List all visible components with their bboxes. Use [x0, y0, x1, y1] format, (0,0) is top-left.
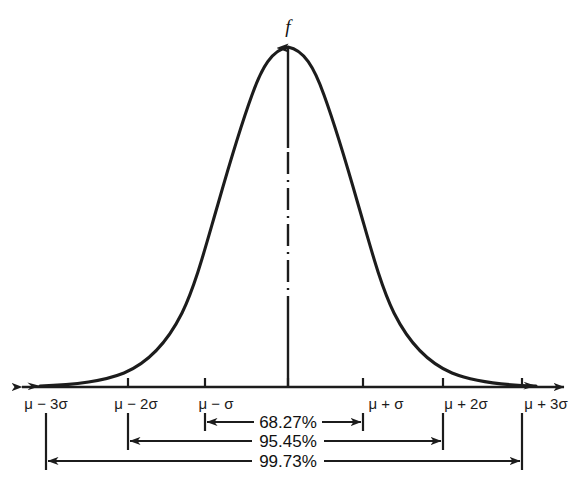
density-axis-group: f [285, 16, 293, 387]
density-axis-label: f [285, 16, 293, 37]
axis-label-plus-3-sigma: μ + 3σ [524, 395, 568, 412]
interval-99-label: 99.73% [259, 452, 317, 471]
interval-95-label: 95.45% [259, 432, 317, 451]
axis-label-plus-2-sigma: μ + 2σ [444, 395, 488, 412]
axis-tick-labels-group: μ − 3σ μ − 2σ μ − σ μ + σ μ + 2σ μ + 3σ [24, 395, 568, 412]
axis-label-minus-2-sigma: μ − 2σ [114, 395, 158, 412]
axis-label-minus-3-sigma: μ − 3σ [24, 395, 68, 412]
interval-68-label: 68.27% [259, 413, 317, 432]
normal-distribution-figure: f μ − 3σ μ − 2σ μ − σ μ + σ μ + 2σ μ + 3… [0, 0, 586, 480]
axis-label-plus-1-sigma: μ + σ [369, 395, 405, 412]
interval-68-group: 68.27% [205, 413, 363, 432]
axis-label-minus-1-sigma: μ − σ [199, 395, 235, 412]
